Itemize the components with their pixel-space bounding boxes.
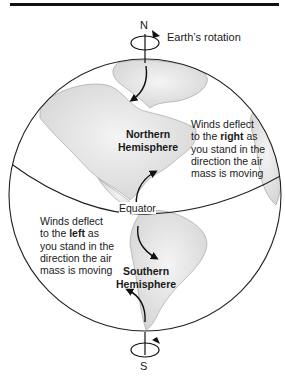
southern-hemisphere-label: Southern Hemisphere — [116, 265, 176, 291]
rotation-label: Earth’s rotation — [167, 31, 241, 43]
north-rotation-indicator — [131, 30, 160, 63]
northern-hemisphere-label: Northern Hemisphere — [118, 128, 178, 154]
north-pole-label: N — [140, 19, 148, 31]
south-pole-label: S — [140, 360, 147, 372]
equator-label: Equator — [119, 202, 156, 214]
southern-deflection-note: Winds deflect to the left as you stand i… — [40, 215, 114, 276]
globe-illustration — [0, 0, 285, 379]
northern-deflection-note: Winds deflect to the right as you stand … — [191, 118, 265, 179]
south-rotation-indicator — [131, 332, 160, 357]
